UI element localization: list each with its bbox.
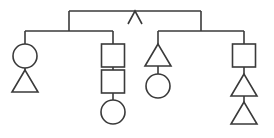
node-circle-female[interactable] <box>101 100 125 124</box>
node-circle-female[interactable] <box>146 74 170 98</box>
connector-lines-group <box>25 11 244 102</box>
pedigree-diagram-canvas <box>0 0 274 138</box>
node-triangle[interactable] <box>12 70 38 92</box>
node-square-male[interactable] <box>233 44 256 67</box>
caret-marker <box>128 11 142 24</box>
node-square-male[interactable] <box>102 44 125 67</box>
node-square-male[interactable] <box>102 70 125 93</box>
node-triangle[interactable] <box>145 44 171 66</box>
pedigree-diagram <box>0 0 274 138</box>
person-nodes-group <box>12 44 257 124</box>
node-circle-female[interactable] <box>13 44 37 68</box>
node-triangle[interactable] <box>231 74 257 96</box>
node-triangle[interactable] <box>231 102 257 124</box>
